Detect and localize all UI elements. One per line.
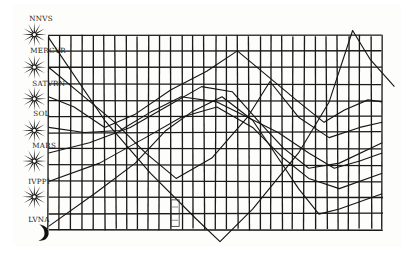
label-saturn: SATVRN: [32, 79, 65, 88]
star-icon: [22, 55, 46, 79]
grid-line-vertical: [48, 36, 49, 229]
grid-line-horizontal: [48, 148, 381, 149]
label-mercury: MERCVR: [30, 46, 66, 55]
star-icon: [22, 87, 46, 111]
label-mars: MARS: [32, 141, 56, 150]
grid-line-vertical: [326, 36, 327, 229]
crescent-moon-icon: [38, 224, 48, 240]
label-venus: NNVS: [29, 14, 53, 23]
grid-line-vertical: [304, 35, 305, 230]
planet-curves: [49, 31, 395, 242]
planetary-chart: NNVS MERCVR SATVRN SOL MARS IVPPI LVNA: [14, 5, 414, 253]
grid-line-horizontal: [49, 181, 382, 182]
grid-line-vertical: [371, 36, 372, 228]
label-jupiter: IVPPI: [28, 177, 50, 186]
star-icon: [22, 185, 46, 209]
grid-line-vertical: [292, 37, 293, 230]
grid-line-horizontal: [49, 213, 383, 214]
label-sol: SOL: [33, 109, 49, 118]
planet-curve-venus: [49, 31, 395, 242]
star-icon: [22, 118, 46, 142]
grid-line-horizontal: [49, 84, 382, 85]
grid-line-horizontal: [49, 230, 383, 231]
manuscript-page: NNVS MERCVR SATVRN SOL MARS IVPPI LVNA: [14, 5, 400, 245]
label-luna: LVNA: [28, 215, 50, 224]
chart-grid: [48, 35, 383, 231]
star-icon: [22, 149, 46, 173]
grid-line-vertical: [248, 36, 249, 230]
grid-line-vertical: [348, 36, 349, 230]
star-icon: [22, 22, 46, 46]
